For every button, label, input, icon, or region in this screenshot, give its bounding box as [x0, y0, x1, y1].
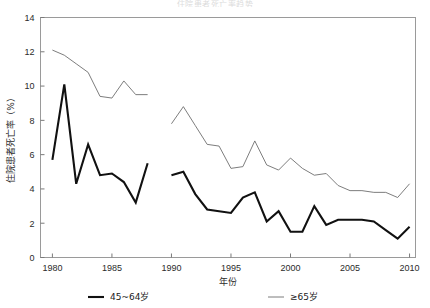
x-tick-label: 1990 [161, 263, 181, 273]
x-tick-label: 2005 [340, 263, 360, 273]
x-axis-title: 年份 [219, 276, 237, 287]
x-tick-label: 1985 [102, 263, 122, 273]
y-tick-label: 14 [24, 13, 34, 23]
series-line-segment [171, 172, 409, 239]
series-line-segment [171, 107, 409, 198]
series-1 [52, 84, 409, 238]
series-line-segment [52, 50, 147, 98]
y-tick-label: 2 [29, 219, 34, 229]
chart-title: 住院患者死亡率趋势 [0, 0, 430, 7]
line-chart-canvas: 02468101214 1980198519901995200020052010… [0, 0, 430, 308]
x-axis: 1980198519901995200020052010 [42, 254, 419, 273]
y-tick-label: 4 [29, 184, 34, 194]
series-layer [52, 50, 409, 239]
y-tick-label: 6 [29, 150, 34, 160]
legend-label: ≥65岁 [290, 291, 318, 302]
chart-legend: 45~64岁≥65岁 [88, 291, 318, 302]
legend-label: 45~64岁 [110, 291, 149, 302]
y-tick-label: 0 [29, 253, 34, 263]
series-line-segment [52, 84, 147, 202]
y-axis: 02468101214 [24, 13, 44, 263]
chart-figure: 住院患者死亡率趋势 02468101214 198019851990199520… [0, 0, 430, 308]
x-tick-label: 2000 [280, 263, 300, 273]
y-tick-label: 12 [24, 47, 34, 57]
y-tick-label: 8 [29, 116, 34, 126]
plot-frame [41, 18, 416, 258]
x-tick-label: 1980 [42, 263, 62, 273]
x-tick-label: 1995 [221, 263, 241, 273]
x-tick-label: 2010 [400, 263, 420, 273]
y-axis-title: 住院患者死亡率（%） [5, 93, 16, 183]
y-tick-label: 10 [24, 81, 34, 91]
